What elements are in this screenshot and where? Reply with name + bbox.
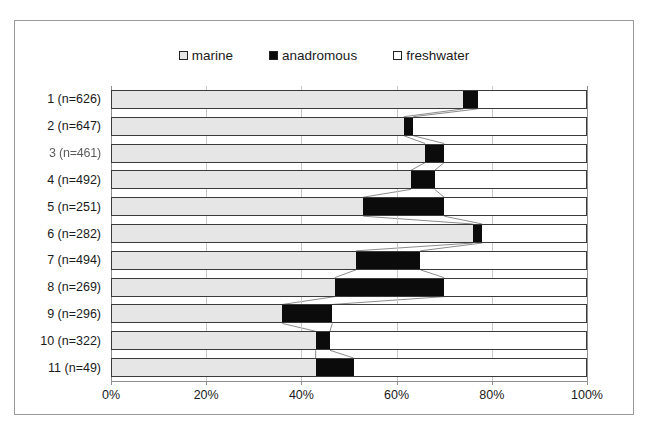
bar-segment-anadromous [473,224,483,243]
x-axis-tick [397,381,398,385]
bar-segment-freshwater [444,197,587,216]
bar-row [111,224,587,243]
bar-segment-marine [111,90,463,109]
bar-segment-anadromous [404,117,414,136]
x-axis-label: 40% [289,388,314,402]
bar-segment-freshwater [354,358,587,377]
x-axis-label: 0% [102,388,120,402]
y-axis-label: 6 (n=282) [47,227,101,241]
chart-frame: marine anadromous freshwater 1 (n=626)2 … [14,20,634,415]
x-axis-tick [587,381,588,385]
x-axis-tick [301,381,302,385]
y-axis-label: 1 (n=626) [47,92,101,106]
y-axis-label: 10 (n=322) [40,334,101,348]
x-axis-tick [206,381,207,385]
x-axis-line [111,381,587,382]
bar-segment-marine [111,304,282,323]
legend-swatch-anadromous [269,51,278,60]
bar-segment-anadromous [411,170,435,189]
legend-item-freshwater: freshwater [393,49,469,63]
bar-row [111,197,587,216]
bar-segment-freshwater [435,170,587,189]
bar-segment-marine [111,224,473,243]
bar-segment-freshwater [413,117,587,136]
x-axis-label: 20% [194,388,219,402]
y-axis-label: 9 (n=296) [47,307,101,321]
bar-segment-freshwater [330,331,587,350]
bar-segment-freshwater [332,304,587,323]
bar-segment-anadromous [335,278,444,297]
bar-segment-anadromous [282,304,332,323]
x-axis-tick [111,381,112,385]
y-axis-label: 2 (n=647) [47,119,101,133]
legend-label-freshwater: freshwater [406,49,469,63]
bar-segment-marine [111,117,404,136]
bar-row [111,251,587,270]
bar-segment-freshwater [444,278,587,297]
y-axis-label: 3 (n=461) [49,146,101,160]
x-axis-label: 80% [479,388,504,402]
bar-segment-freshwater [478,90,587,109]
bar-segment-marine [111,170,411,189]
bar-segment-marine [111,144,425,163]
bar-segment-anadromous [363,197,444,216]
bar-segment-anadromous [316,358,354,377]
x-axis-label: 100% [571,388,603,402]
bar-segment-anadromous [356,251,420,270]
legend-item-anadromous: anadromous [269,49,357,63]
bar-segment-marine [111,278,335,297]
bar-segment-anadromous [316,331,330,350]
x-axis-tick [492,381,493,385]
bar-row [111,358,587,377]
bar-row [111,304,587,323]
bar-segment-anadromous [425,144,444,163]
y-axis-label: 8 (n=269) [47,280,101,294]
y-axis: 1 (n=626)2 (n=647)3 (n=461)4 (n=492)5 (n… [15,86,107,381]
x-axis-label: 60% [384,388,409,402]
bar-segment-anadromous [463,90,477,109]
gridline-100 [587,86,588,381]
bar-row [111,144,587,163]
y-axis-label: 5 (n=251) [47,200,101,214]
bar-segment-freshwater [444,144,587,163]
legend-label-anadromous: anadromous [282,49,357,63]
bar-segment-freshwater [482,224,587,243]
legend-swatch-marine [179,51,188,60]
bar-segment-marine [111,331,316,350]
bar-row [111,331,587,350]
legend-swatch-freshwater [393,51,402,60]
legend-label-marine: marine [192,49,233,63]
bar-segment-marine [111,358,316,377]
chart-legend: marine anadromous freshwater [15,49,633,63]
bar-segment-marine [111,197,363,216]
bar-segment-freshwater [420,251,587,270]
legend-item-marine: marine [179,49,233,63]
bar-row [111,278,587,297]
y-axis-label: 7 (n=494) [47,253,101,267]
bar-row [111,90,587,109]
bar-row [111,117,587,136]
plot-area [111,86,587,381]
bar-row [111,170,587,189]
y-axis-label: 11 (n=49) [48,361,101,375]
y-axis-label: 4 (n=492) [47,173,101,187]
bar-segment-marine [111,251,356,270]
